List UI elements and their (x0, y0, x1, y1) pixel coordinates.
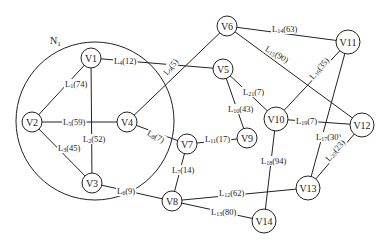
svg-text:L14(63): L14(63) (272, 24, 298, 34)
edge-label-l12: L12(62) (218, 188, 246, 198)
svg-text:V4: V4 (121, 117, 133, 128)
node-v8: V8 (162, 191, 182, 211)
svg-text:L7(14): L7(14) (172, 165, 195, 175)
edge-label-l1: L1(74) (64, 79, 89, 89)
svg-text:V12: V12 (353, 120, 370, 131)
svg-text:V8: V8 (166, 196, 178, 207)
svg-text:V10: V10 (267, 114, 284, 125)
node-v4: V4 (117, 112, 137, 132)
svg-text:V14: V14 (255, 216, 272, 227)
svg-text:L2(52): L2(52) (83, 134, 106, 144)
edge-label-l19: L19(7) (295, 116, 318, 126)
svg-text:V2: V2 (26, 117, 38, 128)
svg-text:L1(74): L1(74) (65, 79, 88, 89)
node-v9: V9 (237, 128, 257, 148)
node-v6: V6 (217, 16, 237, 36)
svg-text:L3(45): L3(45) (58, 143, 81, 153)
svg-text:V3: V3 (86, 178, 98, 189)
edge-l2 (91, 58, 92, 183)
region-label: N1 (50, 35, 61, 48)
edge-label-l6: L6(9) (116, 186, 136, 196)
svg-text:L21(7): L21(7) (243, 87, 264, 97)
svg-text:L11(17): L11(17) (205, 134, 230, 144)
edge-label-l18: L18(94) (260, 156, 288, 166)
node-v11: V11 (336, 30, 360, 54)
svg-text:V9: V9 (241, 133, 253, 144)
svg-text:L4(12): L4(12) (114, 56, 137, 66)
edge-label-l21: L21(7) (242, 87, 265, 97)
svg-text:L16(35): L16(35) (307, 55, 331, 81)
edge-label-l8: L8(7) (145, 127, 168, 145)
network-diagram: N1 L1(74)L2(52)L3(45)L4(12)L5(59)L6(9)L7… (0, 0, 386, 245)
svg-text:L10(43): L10(43) (228, 104, 254, 114)
svg-text:L18(94): L18(94) (261, 156, 287, 166)
edge-l19 (276, 119, 362, 125)
edge-label-l5: L5(59) (62, 117, 87, 127)
node-v3: V3 (82, 173, 102, 193)
svg-text:V11: V11 (340, 37, 357, 48)
svg-text:V13: V13 (299, 183, 316, 194)
node-v14: V14 (252, 209, 276, 233)
svg-text:L5(59): L5(59) (63, 117, 86, 127)
edge-l18 (264, 119, 276, 221)
edge-label-l14: L14(63) (271, 24, 299, 34)
svg-text:V1: V1 (85, 53, 97, 64)
edge-l4 (91, 58, 223, 69)
edge-label-l13: L13(80) (210, 207, 238, 217)
edge-label-l11: L11(17) (204, 134, 231, 144)
node-v1: V1 (81, 48, 101, 68)
node-v12: V12 (350, 113, 374, 137)
node-v2: V2 (22, 112, 42, 132)
node-v5: V5 (213, 59, 233, 79)
svg-text:L12(62): L12(62) (219, 188, 245, 198)
edge-label-l4: L4(12) (113, 56, 138, 66)
edge-label-l2: L2(52) (82, 134, 107, 144)
svg-text:L19(7): L19(7) (296, 116, 317, 126)
edge-label-l10: L10(43) (227, 104, 255, 114)
svg-text:L15(90): L15(90) (264, 44, 291, 65)
edge-label-l3: L3(45) (57, 143, 82, 153)
node-v13: V13 (296, 176, 320, 200)
node-v10: V10 (264, 107, 288, 131)
svg-text:V5: V5 (217, 64, 229, 75)
node-v7: V7 (177, 134, 197, 154)
edge-l1 (32, 58, 91, 122)
svg-text:V7: V7 (181, 139, 193, 150)
svg-text:L6(9): L6(9) (117, 186, 135, 196)
edge-label-l7: L7(14) (171, 165, 196, 175)
edge-label-l16: L16(35) (307, 54, 332, 82)
edge-label-l9: L9(5) (160, 56, 180, 78)
edge-l9 (127, 26, 227, 122)
svg-text:L13(80): L13(80) (211, 207, 237, 217)
svg-text:V6: V6 (221, 21, 233, 32)
